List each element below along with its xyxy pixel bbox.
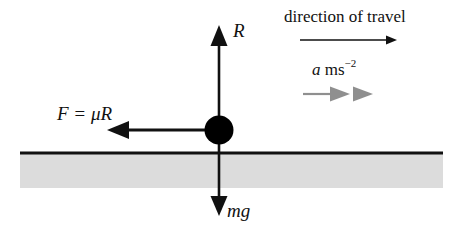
- ground-fill: [20, 154, 443, 188]
- acceleration-label: a ms−2: [312, 59, 356, 78]
- normal-arrowhead: [211, 25, 228, 46]
- friction-force-label: F = μR: [57, 104, 112, 123]
- acceleration-arrowhead-2: [353, 87, 373, 102]
- acceleration-symbol: a: [312, 60, 321, 79]
- weight-arrowhead: [211, 196, 228, 216]
- friction-force-arrow: [107, 121, 219, 139]
- particle-body: [205, 116, 234, 145]
- physics-force-diagram: direction of travel a ms−2 R F = μR mg: [0, 0, 459, 240]
- normal-reaction-label: R: [233, 21, 245, 40]
- travel-arrowhead: [386, 36, 397, 45]
- weight-force-label: mg: [227, 201, 250, 220]
- acceleration-unit: ms: [325, 60, 345, 79]
- acceleration-arrow: [303, 87, 373, 102]
- ground-surface: [20, 152, 443, 189]
- ground-line: [20, 152, 443, 155]
- acceleration-exponent: −2: [345, 57, 357, 69]
- direction-of-travel-arrow: [300, 36, 397, 45]
- normal-reaction-arrow: [211, 25, 228, 130]
- direction-of-travel-label: direction of travel: [284, 8, 406, 25]
- acceleration-arrowhead-1: [330, 87, 350, 102]
